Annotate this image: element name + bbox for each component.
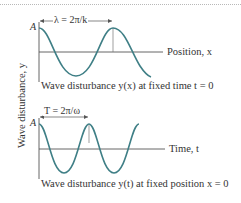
top-panel-graph bbox=[39, 19, 163, 82]
top-wave-curve bbox=[39, 28, 151, 77]
bottom-x-axis-label: Time, t bbox=[169, 143, 199, 154]
top-x-axis-label: Position, x bbox=[167, 46, 212, 57]
bottom-caption: Wave disturbance y(t) at fixed position … bbox=[41, 178, 229, 189]
bottom-period-label: T = 2π/ω bbox=[43, 105, 81, 116]
top-wavelength-label: λ = 2π/k bbox=[53, 14, 88, 25]
wave-diagram bbox=[0, 0, 241, 203]
arrowhead-left-icon bbox=[40, 19, 44, 23]
bottom-panel-graph bbox=[39, 115, 165, 179]
y-axis-label: Wave disturbance, y bbox=[16, 51, 27, 161]
bottom-amplitude-label: A bbox=[30, 117, 36, 128]
arrowhead-right-icon bbox=[108, 19, 112, 23]
top-caption: Wave disturbance y(x) at fixed time t = … bbox=[41, 80, 213, 91]
top-amplitude-label: A bbox=[30, 21, 36, 32]
arrowhead-right-icon bbox=[84, 115, 88, 119]
